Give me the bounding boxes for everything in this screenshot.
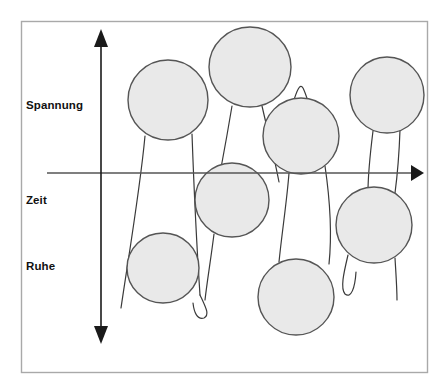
diagram-canvas: Spannung Zeit Ruhe bbox=[0, 0, 447, 388]
node-circle-zeit-2 bbox=[336, 187, 412, 263]
node-circle-ruhe-1 bbox=[127, 233, 199, 303]
axis-label-spannung: Spannung bbox=[26, 99, 83, 111]
node-circle-ruhe-2 bbox=[258, 259, 334, 335]
node-circle-spannung-1 bbox=[128, 60, 208, 140]
axis-label-zeit: Zeit bbox=[26, 194, 47, 206]
node-circle-spannung-2 bbox=[209, 27, 291, 107]
node-circle-zeit-1 bbox=[195, 163, 269, 237]
spannung-zeit-diagram bbox=[0, 0, 447, 388]
node-circle-spannung-4 bbox=[350, 57, 424, 133]
node-circle-spannung-3 bbox=[263, 98, 339, 174]
axis-label-ruhe: Ruhe bbox=[26, 260, 55, 272]
